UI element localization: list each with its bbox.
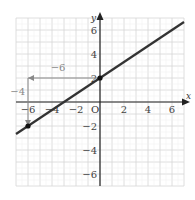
x-tick-label: −2: [69, 104, 84, 115]
coordinate-plane: xyO −6−4−2246−6−4−2246 −6−4: [0, 0, 195, 200]
y-axis-arrow-icon: [97, 12, 104, 20]
data-point: [97, 75, 102, 80]
x-tick-label: 4: [145, 104, 151, 115]
y-tick-label: 6: [91, 25, 97, 36]
y-tick-label: −2: [82, 121, 97, 132]
y-axis-label: y: [90, 13, 97, 23]
y-tick-label: 4: [91, 49, 97, 60]
annotation-arrowhead-icon: [28, 75, 34, 81]
data-point: [25, 123, 30, 128]
annotations: −6−4: [10, 62, 100, 126]
x-axis-label: x: [186, 91, 191, 101]
y-tick-label: −6: [82, 169, 97, 180]
axes: xyO: [16, 12, 191, 186]
origin-label: O: [91, 104, 99, 115]
annotation-label: −4: [10, 86, 25, 97]
annotation-label: −6: [51, 62, 66, 73]
x-tick-label: 6: [169, 104, 175, 115]
x-tick-label: 2: [121, 104, 127, 115]
y-tick-label: −4: [82, 145, 97, 156]
